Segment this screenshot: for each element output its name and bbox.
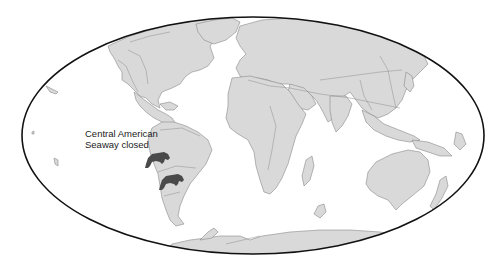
landmass-madagascar	[302, 156, 314, 186]
annotation-line-2: Seaway closed	[85, 139, 158, 150]
landmass-island-aleutian	[46, 86, 58, 94]
map-annotation-label: Central American Seaway closed	[85, 128, 158, 150]
landmass-caribbean	[160, 102, 178, 110]
landmass-australia	[366, 150, 430, 210]
annotation-line-1: Central American	[85, 128, 158, 139]
map-canvas	[0, 0, 503, 267]
landmass-pacific-islands	[454, 132, 466, 150]
landmass-kerguelen	[314, 204, 326, 218]
paleogeographic-world-map: Central American Seaway closed	[0, 0, 503, 267]
landmass-island-small	[32, 131, 34, 134]
landmass-india	[330, 96, 352, 132]
landmass-island-hawaii	[54, 158, 58, 166]
landmass-southeast-asia	[362, 110, 420, 142]
